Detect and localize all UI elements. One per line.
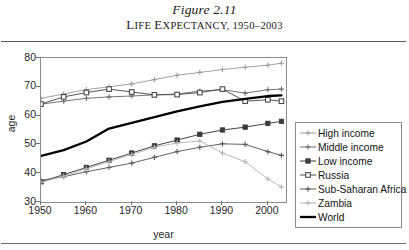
y-axis-tickmark-50: [36, 143, 40, 144]
figure-caption: LIFE EXPECTANCY, 1950–2003: [0, 17, 409, 34]
figure-caption-small-ife: IFE: [134, 20, 154, 31]
y-axis-tickmark-70: [36, 86, 40, 87]
legend-item-high-income[interactable]: High income: [298, 126, 401, 140]
legend-item-label: Russia: [318, 170, 349, 181]
x-axis-tick-1970: 1970: [111, 205, 151, 216]
y-axis-tick-40: 40: [10, 167, 36, 178]
y-axis-tickmark-60: [36, 115, 40, 116]
figure-number: Figure 2.11: [0, 2, 409, 17]
legend-item-zambia[interactable]: Zambia: [298, 196, 401, 210]
x-axis-tickmark-1970: [131, 201, 132, 205]
x-axis-tick-1990: 1990: [201, 205, 241, 216]
legend-item-label: World: [318, 212, 344, 223]
x-axis-tick-1980: 1980: [156, 205, 196, 216]
x-axis-tickmark-1950: [40, 201, 41, 205]
plus-marker: [298, 140, 318, 154]
chart-container: age year 304050607080 195019601970198019…: [0, 48, 409, 244]
plus-marker: [298, 196, 318, 210]
top-divider-rule: [1, 41, 406, 42]
chart-legend: High incomeMiddle incomeLow incomeRussia…: [295, 122, 402, 228]
legend-item-label: High income: [318, 128, 375, 139]
square-filled-marker: [298, 154, 318, 168]
legend-item-label: Low income: [318, 156, 372, 167]
legend-item-low-income[interactable]: Low income: [298, 154, 401, 168]
series-russia: [41, 87, 284, 107]
x-axis-tickmark-1980: [176, 201, 177, 205]
legend-item-label: Sub-Saharan Africa: [318, 184, 406, 195]
legend-item-middle-income[interactable]: Middle income: [298, 140, 401, 154]
legend-item-russia[interactable]: Russia: [298, 168, 401, 182]
plot-series-svg: [41, 58, 286, 202]
x-axis-tick-2000: 2000: [247, 205, 287, 216]
x-axis-tickmark-1960: [85, 201, 86, 205]
plus-marker: [298, 126, 318, 140]
legend-item-world[interactable]: World: [298, 210, 401, 224]
figure-caption-small-rest: XPECTANCY, 1950–2003: [162, 20, 282, 31]
plot-area: [40, 57, 287, 203]
figure-title-block: Figure 2.11 LIFE EXPECTANCY, 1950–2003: [0, 2, 409, 34]
x-axis-tick-1960: 1960: [65, 205, 105, 216]
y-axis-tickmark-80: [36, 57, 40, 58]
square-open-marker: [298, 168, 318, 182]
y-axis-tick-70: 70: [10, 80, 36, 91]
legend-item-sub-saharan-africa[interactable]: Sub-Saharan Africa: [298, 182, 401, 196]
legend-item-label: Zambia: [318, 198, 352, 209]
y-axis-tick-60: 60: [10, 109, 36, 120]
plus-marker: [298, 182, 318, 196]
bottom-divider-rule: [1, 243, 406, 244]
x-axis-tick-1950: 1950: [20, 205, 60, 216]
y-axis-tickmark-40: [36, 172, 40, 173]
x-axis-title: year: [40, 229, 287, 240]
y-axis-tick-80: 80: [10, 52, 36, 63]
series-low-income: [41, 119, 284, 184]
x-axis-tickmark-2000: [267, 201, 268, 205]
legend-item-label: Middle income: [318, 142, 384, 153]
y-axis-tick-50: 50: [10, 138, 36, 149]
legend-line-swatch: [298, 210, 318, 224]
x-axis-tickmark-1990: [221, 201, 222, 205]
